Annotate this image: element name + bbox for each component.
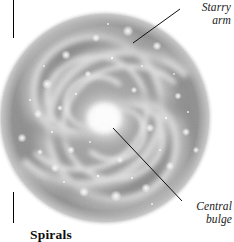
crop-rule-top — [13, 0, 14, 38]
callout-label-starry-arm: Starry arm — [202, 1, 231, 26]
callout-central-bulge-line1: Central — [196, 200, 232, 213]
callout-central-bulge-line2: bulge — [196, 213, 232, 226]
callout-starry-arm-line1: Starry — [202, 1, 231, 14]
figure-caption-spirals: Spirals — [30, 227, 72, 242]
spiral-galaxy-figure: Starry arm Central bulge Spirals — [0, 0, 234, 242]
crop-rule-bottom — [13, 192, 14, 223]
callout-starry-arm-line2: arm — [202, 14, 231, 27]
callout-label-central-bulge: Central bulge — [196, 200, 232, 225]
